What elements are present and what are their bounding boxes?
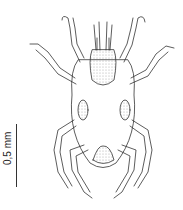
leg-1-right xyxy=(124,17,145,62)
mite-illustration xyxy=(0,0,183,210)
right-spot xyxy=(120,100,130,120)
leg-2-right xyxy=(131,46,174,78)
left-spot xyxy=(78,100,88,120)
leg-1-left xyxy=(62,16,80,62)
leg-3-left xyxy=(54,120,74,188)
leg-3-right xyxy=(132,120,152,188)
prodorsal-shield xyxy=(90,50,116,85)
leg-2-left xyxy=(30,44,75,78)
